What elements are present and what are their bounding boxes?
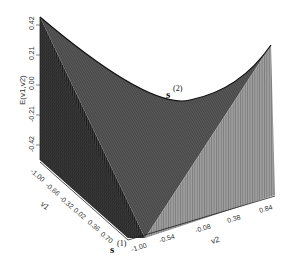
svg-text:s: s xyxy=(110,243,115,255)
z-axis-label: E(v1,v2) xyxy=(18,75,27,105)
svg-text:-0.08: -0.08 xyxy=(194,223,211,234)
v2-axis-label: v2 xyxy=(210,235,221,246)
svg-text:-0.32: -0.32 xyxy=(58,194,75,210)
svg-text:(1): (1) xyxy=(117,239,127,248)
surface-plot: 0.42 0.21 0.00 -0.21 -0.42 E(v1,v2) -1.0… xyxy=(0,0,302,274)
svg-text:0.02: 0.02 xyxy=(72,206,87,220)
annotation-s1: s (1) xyxy=(110,239,127,255)
svg-text:-1.00: -1.00 xyxy=(130,242,147,253)
svg-text:0.38: 0.38 xyxy=(226,213,241,224)
z-tick-labels: 0.42 0.21 0.00 -0.21 -0.42 xyxy=(28,16,35,152)
z-axis-ticks xyxy=(36,25,40,145)
svg-text:0.42: 0.42 xyxy=(28,16,35,30)
svg-text:-0.66: -0.66 xyxy=(44,181,61,197)
svg-text:-1.00: -1.00 xyxy=(29,167,46,183)
svg-text:0.84: 0.84 xyxy=(258,203,273,214)
annotation-s2: s (2) xyxy=(166,84,183,100)
svg-text:s: s xyxy=(166,88,171,100)
svg-text:-0.54: -0.54 xyxy=(158,233,175,244)
svg-text:0.21: 0.21 xyxy=(28,46,35,60)
svg-text:(2): (2) xyxy=(173,84,183,93)
svg-text:-0.21: -0.21 xyxy=(28,106,35,122)
svg-text:-0.42: -0.42 xyxy=(28,136,35,152)
svg-text:0.36: 0.36 xyxy=(86,218,101,232)
v1-axis-label: v1 xyxy=(39,200,52,213)
svg-text:0.00: 0.00 xyxy=(28,76,35,90)
